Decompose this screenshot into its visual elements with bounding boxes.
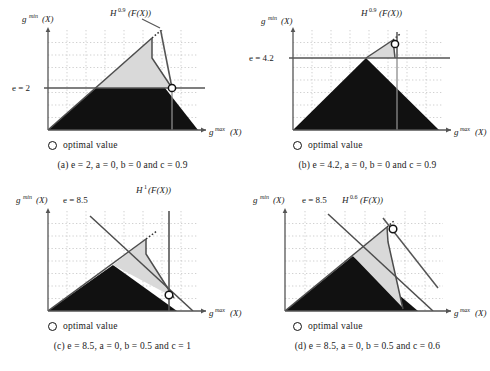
- dotted-extension-line: [152, 27, 165, 38]
- h-label-base: H: [341, 195, 349, 205]
- x-axis-label-arg: (X): [475, 127, 487, 137]
- panel-c-caption: (c) e = 8.5, a = 0, b = 0.5 and c = 1: [0, 341, 245, 351]
- panel-a-plot: g min (X) g max (X) e = 2 H 0.9 (F(X)): [0, 0, 245, 140]
- y-axis-label-sup: min: [29, 13, 38, 19]
- h-label-base: H: [360, 8, 368, 18]
- x-axis-arrow: [446, 309, 451, 314]
- optimal-value-marker: [168, 84, 175, 91]
- optimal-value-legend-icon: [48, 322, 57, 331]
- panel-d-plot: g min (X) g max (X) e = 8.5 H 0.6 (F(X)): [245, 181, 490, 321]
- y-axis-label-arg: (X): [273, 195, 285, 205]
- dark-feasible-region: [293, 58, 439, 130]
- optimal-value-legend-icon: [293, 322, 302, 331]
- h-label-arg: (F(X)): [128, 8, 151, 18]
- panel-d-legend: optimal value: [293, 321, 363, 331]
- x-axis-arrow: [201, 309, 206, 314]
- panel-d-caption: (d) e = 8.5, a = 0, b = 0.5 and c = 0.6: [245, 341, 490, 351]
- optimal-value-legend-label: optimal value: [63, 140, 118, 150]
- y-axis-label-arg: (X): [42, 14, 54, 24]
- light-region: [96, 38, 172, 88]
- x-axis-arrow: [201, 128, 206, 133]
- panel-a-svg: g min (X) g max (X) e = 2 H 0.9 (F(X)): [0, 0, 245, 140]
- x-axis-arrow: [446, 128, 451, 133]
- x-axis-label-base: g: [209, 308, 214, 318]
- y-axis-label-base: g: [261, 16, 266, 26]
- panel-a: g min (X) g max (X) e = 2 H 0.9 (F(X)) o…: [0, 0, 245, 186]
- dotted-extension-line: [146, 231, 157, 239]
- y-axis-label-base: g: [16, 195, 21, 205]
- panel-a-legend: optimal value: [48, 140, 118, 150]
- optimal-value-legend-label: optimal value: [63, 321, 118, 331]
- panel-b-svg: g min (X) g max (X) e = 4.2 H 0.9 (F(X)): [245, 0, 490, 140]
- threshold-label: e = 8.5: [302, 195, 327, 205]
- x-axis-label-sup: max: [215, 126, 225, 132]
- x-axis-label-base: g: [454, 127, 459, 137]
- h-label-arg: (F(X)): [148, 185, 171, 195]
- panel-b-plot: g min (X) g max (X) e = 4.2 H 0.9 (F(X)): [245, 0, 490, 140]
- panel-a-caption: (a) e = 2, a = 0, b = 0 and c = 0.9: [0, 160, 245, 170]
- panel-d: g min (X) g max (X) e = 8.5 H 0.6 (F(X))…: [245, 181, 490, 367]
- optimal-value-marker: [389, 225, 397, 233]
- h-label-leader-line: [142, 19, 160, 28]
- h-label-base: H: [109, 8, 117, 18]
- optimal-value-legend-icon: [293, 141, 302, 150]
- h-label-base: H: [135, 185, 143, 195]
- threshold-label: e = 8.5: [63, 195, 88, 205]
- y-axis-arrow: [291, 27, 296, 32]
- y-axis-label-arg: (X): [281, 16, 293, 26]
- figure-grid: g min (X) g max (X) e = 2 H 0.9 (F(X)) o…: [0, 0, 490, 371]
- y-axis-label-sup: min: [260, 194, 269, 200]
- y-axis-label-arg: (X): [36, 195, 48, 205]
- panel-b: g min (X) g max (X) e = 4.2 H 0.9 (F(X))…: [245, 0, 490, 186]
- optimal-value-legend-label: optimal value: [308, 140, 363, 150]
- h-label-arg: (F(X)): [360, 195, 383, 205]
- y-axis-label-sup: min: [268, 15, 277, 21]
- h-label-sup: 1: [144, 184, 147, 190]
- h-label-sup: 0.9: [369, 7, 377, 13]
- threshold-label: e = 4.2: [249, 53, 274, 63]
- x-axis-label-base: g: [454, 308, 459, 318]
- h-label-sup: 0.9: [118, 7, 126, 13]
- panel-b-legend: optimal value: [293, 140, 363, 150]
- x-axis-label-sup: max: [460, 307, 470, 313]
- panel-c-plot: g min (X) g max (X) e = 8.5 H 1 (F(X)): [0, 181, 245, 321]
- y-axis-arrow: [46, 27, 51, 32]
- x-axis-label-base: g: [209, 127, 214, 137]
- panel-c-svg: g min (X) g max (X) e = 8.5 H 1 (F(X)): [0, 181, 245, 321]
- h-label-arg: (F(X)): [379, 8, 402, 18]
- optimal-value-legend-label: optimal value: [308, 321, 363, 331]
- y-axis-label-base: g: [22, 14, 27, 24]
- x-axis-label-sup: max: [460, 126, 470, 132]
- panel-c-legend: optimal value: [48, 321, 118, 331]
- optimal-value-marker: [165, 291, 173, 299]
- panel-d-svg: g min (X) g max (X) e = 8.5 H 0.6 (F(X)): [245, 181, 490, 321]
- threshold-label: e = 2: [12, 83, 30, 93]
- y-axis-arrow: [283, 208, 288, 213]
- y-axis-arrow: [46, 208, 51, 213]
- panel-b-caption: (b) e = 4.2, a = 0, b = 0 and c = 0.9: [245, 160, 490, 170]
- optimal-value-marker: [391, 40, 398, 47]
- y-axis-label-sup: min: [23, 194, 32, 200]
- panel-c: g min (X) g max (X) e = 8.5 H 1 (F(X)) o…: [0, 181, 245, 367]
- y-axis-label-base: g: [253, 195, 258, 205]
- x-axis-label-arg: (X): [475, 308, 487, 318]
- x-axis-label-arg: (X): [230, 127, 242, 137]
- h-label-sup: 0.6: [350, 194, 358, 200]
- dark-feasible-region: [48, 88, 198, 130]
- x-axis-label-arg: (X): [230, 308, 242, 318]
- optimal-value-legend-icon: [48, 141, 57, 150]
- x-axis-label-sup: max: [215, 307, 225, 313]
